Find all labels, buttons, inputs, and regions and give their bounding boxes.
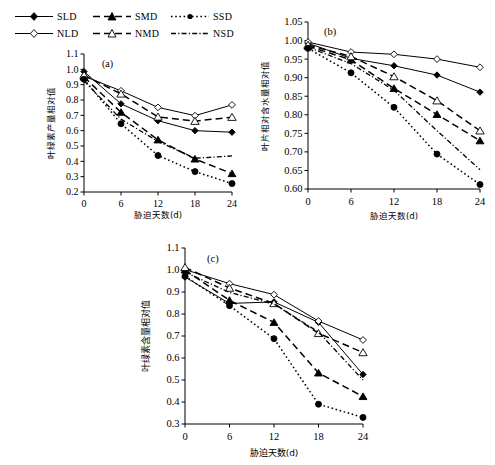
y-axis-title: 叶绿素含量相对值 (140, 300, 151, 372)
series-line-smd (185, 270, 363, 397)
data-point (182, 273, 188, 279)
x-tick-label: 24 (227, 198, 237, 209)
data-point (433, 111, 441, 118)
y-tick-label: 0.65 (284, 165, 302, 176)
data-point (192, 127, 198, 133)
x-tick-label: 0 (82, 198, 87, 209)
data-point (271, 336, 277, 342)
y-tick-label: 0.5 (66, 140, 79, 151)
panel-tag-c: (c) (207, 253, 219, 265)
plot-c: 0.30.40.50.60.70.80.91.01.106121824(c)叶绿… (133, 232, 373, 464)
x-tick-label: 6 (348, 196, 353, 207)
plot-b: 0.600.650.700.750.800.850.900.951.001.05… (250, 10, 488, 225)
y-axis-title: 叶片相对含水量相对值 (260, 61, 270, 151)
x-tick-label: 12 (269, 431, 280, 442)
y-tick-label: 0.7 (166, 330, 179, 341)
y-tick-label: 0.9 (66, 79, 79, 90)
y-tick-label: 1.00 (284, 35, 302, 46)
legend-line-sld-icon (14, 11, 54, 22)
x-tick-label: 0 (305, 196, 310, 207)
data-point (154, 113, 162, 120)
x-axis-title: 胁迫天数(d) (250, 447, 299, 458)
y-tick-label: 1.0 (166, 264, 179, 275)
legend-item-ssd: SSD (170, 11, 248, 22)
chart-panel-b: 0.600.650.700.750.800.850.900.951.001.05… (250, 10, 488, 225)
x-axis-title: 胁迫天数(d) (370, 211, 418, 221)
legend-label-smd: SMD (135, 12, 158, 22)
y-tick-label: 1.1 (66, 48, 79, 59)
legend-line-nmd-icon (92, 28, 132, 39)
legend-label-nld: NLD (57, 29, 78, 39)
data-point (390, 73, 398, 80)
y-tick-label: 0.75 (284, 128, 302, 139)
data-point (118, 121, 124, 127)
data-point (433, 97, 441, 104)
data-point (477, 64, 484, 71)
data-point (434, 56, 441, 63)
legend-line-nsd-icon (170, 28, 210, 39)
data-point (434, 151, 440, 157)
legend-line-ssd-icon (170, 11, 210, 22)
data-point (191, 155, 199, 162)
y-tick-label: 1.0 (66, 64, 79, 75)
chart-legend: SLD SMD SSD NLD NMD NSD (14, 8, 246, 42)
y-tick-label: 0.2 (66, 186, 79, 197)
data-point (391, 104, 397, 110)
y-tick-label: 0.70 (284, 146, 302, 157)
y-tick-label: 1.1 (166, 242, 179, 253)
data-point (155, 153, 161, 159)
y-tick-label: 0.5 (166, 374, 179, 385)
y-tick-label: 0.90 (284, 72, 302, 83)
data-point (316, 401, 322, 407)
panel-tag-a: (a) (102, 58, 113, 70)
legend-label-sld: SLD (57, 12, 77, 22)
data-point (360, 414, 366, 420)
y-tick-label: 0.7 (66, 110, 79, 121)
data-point (155, 104, 162, 111)
data-point (181, 264, 189, 271)
y-tick-label: 0.8 (166, 308, 179, 319)
series-nmd (80, 71, 236, 124)
data-point (229, 181, 235, 187)
y-tick-label: 0.85 (284, 91, 302, 102)
legend-item-nld: NLD (14, 28, 92, 39)
series-line-nsd (185, 272, 363, 380)
x-tick-label: 18 (190, 198, 200, 209)
legend-line-smd-icon (92, 11, 132, 22)
legend-label-nmd: NMD (135, 29, 159, 39)
x-tick-label: 6 (119, 198, 124, 209)
y-tick-label: 0.4 (66, 156, 79, 167)
x-tick-label: 18 (432, 196, 443, 207)
y-axis-title: 叶绿素产量相对值 (46, 87, 56, 159)
chart-panel-a: 0.20.30.40.50.60.70.80.91.01.106121824(a… (40, 42, 240, 222)
chart-panel-c: 0.30.40.50.60.70.80.91.01.106121824(c)叶绿… (133, 232, 373, 464)
legend-item-sld: SLD (14, 11, 92, 22)
y-tick-label: 0.3 (166, 418, 179, 429)
data-point (228, 170, 236, 177)
x-tick-label: 24 (475, 196, 486, 207)
y-tick-label: 0.8 (66, 94, 79, 105)
data-point (227, 303, 233, 309)
data-point (477, 182, 483, 188)
data-point (434, 72, 440, 78)
legend-item-smd: SMD (92, 11, 170, 22)
x-tick-label: 12 (153, 198, 163, 209)
data-point (391, 63, 397, 69)
y-tick-label: 0.9 (166, 286, 179, 297)
data-point (359, 393, 367, 400)
y-tick-label: 0.3 (66, 171, 79, 182)
x-tick-label: 0 (182, 431, 187, 442)
data-point (391, 51, 398, 58)
data-point (476, 137, 484, 144)
y-tick-label: 0.80 (284, 109, 302, 120)
data-point (192, 169, 198, 175)
data-point (271, 291, 278, 298)
data-point (360, 337, 367, 344)
y-tick-label: 0.6 (66, 125, 79, 136)
legend-item-nsd: NSD (170, 28, 248, 39)
legend-item-nmd: NMD (92, 28, 170, 39)
data-point (348, 70, 354, 76)
legend-label-ssd: SSD (213, 12, 232, 22)
data-point (229, 102, 236, 109)
x-axis-title: 胁迫天数(d) (134, 210, 182, 220)
